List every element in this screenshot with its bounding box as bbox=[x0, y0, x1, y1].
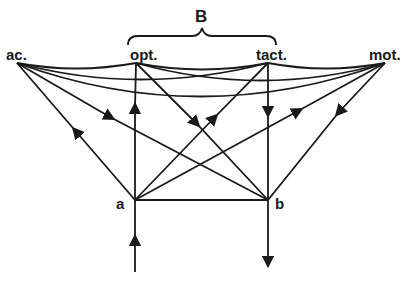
edge-a-ac bbox=[17, 63, 135, 200]
node-mot-label: mot. bbox=[369, 47, 401, 62]
node-b-label: b bbox=[275, 196, 284, 211]
edge-ac-b bbox=[17, 63, 268, 200]
node-opt-label: opt. bbox=[130, 47, 158, 62]
group-brace bbox=[128, 28, 276, 45]
edge-mot-b bbox=[268, 63, 385, 200]
edge-a-mot bbox=[135, 63, 385, 200]
edge-a-opt bbox=[135, 63, 136, 200]
node-tact-label: tact. bbox=[256, 47, 287, 62]
node-a-label: a bbox=[116, 196, 124, 211]
group-label: B bbox=[195, 8, 207, 25]
node-ac-label: ac. bbox=[6, 47, 27, 62]
directed-edges bbox=[17, 63, 385, 200]
curved-edges bbox=[17, 63, 385, 97]
network-diagram bbox=[0, 0, 413, 285]
